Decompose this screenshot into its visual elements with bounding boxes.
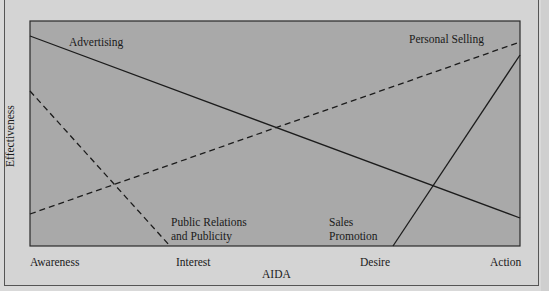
- label-advertising: Advertising: [69, 36, 123, 49]
- plot-area: [30, 21, 520, 246]
- x-tick-action: Action: [490, 256, 521, 269]
- x-tick-awareness: Awareness: [30, 256, 79, 269]
- x-tick-desire: Desire: [360, 256, 390, 269]
- x-tick-interest: Interest: [176, 256, 210, 269]
- x-axis-label: AIDA: [262, 268, 291, 281]
- label-pr-line1: Public Relations: [171, 216, 247, 229]
- label-sp-line2: Promotion: [329, 230, 378, 243]
- label-pr-line2: and Publicity: [171, 230, 232, 243]
- label-personal-selling: Personal Selling: [409, 33, 484, 46]
- label-sp-line1: Sales: [329, 216, 353, 229]
- y-axis-label: Effectiveness: [4, 105, 16, 167]
